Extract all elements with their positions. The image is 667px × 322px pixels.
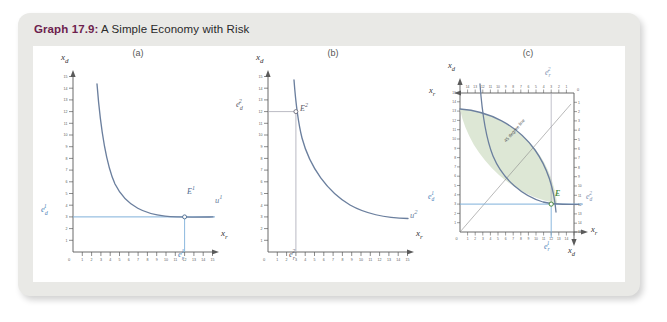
panel-a: (a)	[43, 46, 233, 282]
panel-c-point-label: E	[555, 189, 560, 198]
svg-text:9: 9	[66, 145, 68, 149]
panel-a-label: (a)	[43, 48, 233, 58]
svg-text:15: 15	[406, 258, 410, 262]
svg-text:15: 15	[452, 91, 456, 95]
svg-text:2: 2	[578, 110, 580, 114]
svg-text:10: 10	[359, 258, 363, 262]
svg-text:7: 7	[512, 237, 514, 241]
svg-text:3: 3	[295, 258, 297, 262]
svg-text:6: 6	[505, 237, 507, 241]
svg-text:10: 10	[496, 85, 500, 89]
svg-text:13: 13	[192, 258, 196, 262]
panel-c-endow1-y-label: ed1	[428, 190, 434, 202]
panel-c-endow1-x-label: er1	[544, 240, 549, 252]
svg-text:5: 5	[314, 258, 316, 262]
svg-text:9: 9	[156, 258, 158, 262]
svg-text:12: 12	[378, 258, 382, 262]
panel-c-ylabel-left: xd	[448, 60, 455, 72]
svg-text:5: 5	[119, 258, 121, 262]
panel-c-top-ticks	[468, 90, 567, 94]
svg-text:5: 5	[66, 192, 68, 196]
panel-a-point-label: E1	[187, 185, 195, 196]
panel-c-top-ticklabels: 1413 1211 109 87 65 43 21	[466, 85, 568, 89]
panel-c-right-ticks	[574, 102, 577, 232]
svg-text:5: 5	[535, 85, 537, 89]
svg-text:7: 7	[578, 156, 580, 160]
graph-number: Graph 17.9:	[34, 23, 98, 35]
svg-text:14: 14	[565, 237, 569, 241]
panel-a-xlabel: xr	[221, 228, 228, 241]
panel-b: (b)	[238, 46, 428, 282]
graph-title: A Simple Economy with Risk	[98, 23, 249, 35]
panel-c-left-ticks	[457, 93, 460, 223]
svg-text:11: 11	[64, 122, 68, 126]
svg-text:9: 9	[578, 175, 580, 179]
svg-text:8: 8	[146, 258, 148, 262]
svg-text:7: 7	[332, 258, 334, 262]
panel-b-y-ticks	[264, 77, 268, 241]
svg-text:9: 9	[505, 85, 507, 89]
panel-b-origin: 0	[263, 257, 266, 262]
svg-text:3: 3	[261, 215, 263, 219]
panel-c-origin-tr: 0	[577, 88, 579, 92]
panel-c-label: (c)	[431, 48, 625, 58]
svg-text:7: 7	[454, 165, 456, 169]
panel-b-point-label: E2	[300, 102, 308, 113]
svg-text:6: 6	[454, 174, 456, 178]
svg-text:2: 2	[454, 212, 456, 216]
svg-text:12: 12	[64, 110, 68, 114]
svg-text:6: 6	[323, 258, 325, 262]
svg-text:2: 2	[261, 227, 263, 231]
svg-text:12: 12	[452, 119, 456, 123]
svg-text:6: 6	[66, 180, 68, 184]
svg-text:6: 6	[578, 147, 580, 151]
svg-text:1: 1	[467, 237, 469, 241]
panel-b-endow-y-label: ed2	[236, 98, 242, 111]
svg-text:4: 4	[109, 258, 111, 262]
svg-text:2: 2	[91, 258, 93, 262]
svg-text:1: 1	[454, 221, 456, 225]
svg-text:10: 10	[259, 133, 263, 137]
svg-text:1: 1	[578, 101, 580, 105]
panel-a-origin: 0	[68, 257, 71, 262]
svg-text:4: 4	[543, 85, 545, 89]
panel-c-bottom-ticks	[468, 232, 574, 236]
svg-text:9: 9	[527, 237, 529, 241]
svg-text:9: 9	[351, 258, 353, 262]
figure-page: Graph 17.9: A Simple Economy with Risk (…	[0, 0, 667, 322]
svg-text:8: 8	[341, 258, 343, 262]
panel-a-x-ticklabels: 12 34 56 78 910 1112 1314 15	[81, 258, 214, 262]
svg-text:2: 2	[66, 227, 68, 231]
svg-text:11: 11	[259, 122, 263, 126]
svg-text:4: 4	[261, 204, 263, 208]
svg-text:11: 11	[368, 258, 372, 262]
svg-text:2: 2	[474, 237, 476, 241]
svg-text:7: 7	[261, 168, 263, 172]
svg-text:3: 3	[482, 237, 484, 241]
svg-text:8: 8	[512, 85, 514, 89]
panel-c-left-ticklabels: 12 34 56 78 910 1112 1314 15	[452, 91, 456, 225]
svg-text:9: 9	[454, 147, 456, 151]
svg-text:14: 14	[201, 258, 205, 262]
panel-c-xlabel-bottom: xr	[591, 224, 597, 236]
svg-text:13: 13	[452, 109, 456, 113]
svg-text:7: 7	[66, 168, 68, 172]
svg-text:10: 10	[578, 184, 582, 188]
svg-text:3: 3	[550, 85, 552, 89]
svg-text:6: 6	[261, 180, 263, 184]
panel-b-x-ticklabels: 12 34 56 78 910 1112 1314 15	[276, 258, 409, 262]
svg-text:3: 3	[454, 202, 456, 206]
svg-text:14: 14	[64, 87, 68, 91]
svg-text:13: 13	[387, 258, 391, 262]
svg-text:14: 14	[259, 87, 263, 91]
panel-a-endow-x-label: er1	[178, 248, 184, 261]
svg-text:12: 12	[481, 85, 485, 89]
panel-b-curve-u2	[294, 80, 408, 219]
panel-c-xlabel-top: xr	[429, 85, 435, 97]
svg-text:2: 2	[558, 85, 560, 89]
panel-b-plot: 12 34 56 78 910 1112 1314 15	[238, 62, 428, 280]
svg-text:4: 4	[304, 258, 306, 262]
svg-text:10: 10	[534, 237, 538, 241]
panel-c-endow2-y-label: ed2	[586, 190, 592, 202]
svg-text:14: 14	[578, 221, 582, 225]
